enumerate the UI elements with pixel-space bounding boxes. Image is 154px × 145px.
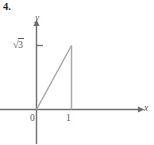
y-tick-label-sqrt3: √3 <box>13 39 24 51</box>
x-tick-label-0: 0 <box>30 113 35 123</box>
x-axis-label: x <box>144 103 148 113</box>
x-tick-label-1: 1 <box>66 113 71 123</box>
line-segment-hypotenuse <box>37 46 72 110</box>
y-axis <box>33 20 39 145</box>
y-axis-label: y <box>35 13 39 23</box>
radicand-value: 3 <box>18 38 24 50</box>
figure-container: 4. y x √3 0 1 <box>0 0 154 144</box>
plot-canvas <box>0 0 154 144</box>
